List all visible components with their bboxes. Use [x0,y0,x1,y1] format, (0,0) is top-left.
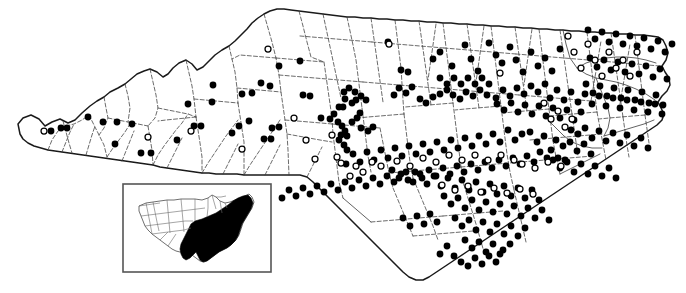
filled-circle-marker [536,197,543,204]
filled-circle-marker [490,209,497,216]
open-circle-marker [394,158,400,164]
filled-circle-marker [85,114,92,121]
filled-circle-marker [588,151,595,158]
filled-circle-marker [541,133,548,140]
filled-circle-marker [412,169,419,176]
filled-circle-marker [585,171,592,178]
filled-circle-marker [508,223,515,230]
filled-circle-marker [515,233,522,240]
filled-circle-marker [450,92,457,99]
filled-circle-marker [659,111,666,118]
filled-circle-marker [648,46,655,53]
filled-circle-marker [476,133,483,140]
filled-circle-marker [613,175,620,182]
open-circle-marker [465,183,471,189]
filled-circle-marker [494,221,501,228]
open-circle-marker [545,159,551,165]
filled-circle-marker [557,46,564,53]
filled-circle-marker [497,139,504,146]
filled-circle-marker [546,217,553,224]
filled-circle-marker [542,55,549,62]
filled-circle-marker [548,147,555,154]
open-circle-marker [303,137,309,143]
open-circle-marker [407,163,413,169]
filled-circle-marker [307,191,314,198]
filled-circle-marker [352,89,359,96]
filled-circle-marker [490,131,497,138]
filled-circle-marker [399,153,406,160]
filled-circle-marker [469,143,476,150]
filled-circle-marker [328,181,335,188]
filled-circle-marker [629,61,636,68]
filled-circle-marker [627,33,634,40]
filled-circle-marker [430,56,437,63]
filled-circle-marker [507,93,514,100]
filled-circle-marker [554,87,561,94]
filled-circle-marker [645,145,652,152]
filled-circle-marker [459,223,466,230]
open-circle-marker [634,49,640,55]
open-circle-marker [360,169,366,175]
open-circle-marker [459,157,465,163]
open-circle-marker [265,46,271,52]
filled-circle-marker [403,90,410,97]
filled-circle-marker [427,149,434,156]
filled-circle-marker [420,141,427,148]
open-circle-marker [433,159,439,165]
filled-circle-marker [611,85,618,92]
filled-circle-marker [342,179,349,186]
us-locator-inset [122,183,272,273]
filled-circle-marker [451,75,458,82]
filled-circle-marker [398,171,405,178]
filled-circle-marker [531,159,538,166]
filled-circle-marker [639,89,646,96]
filled-circle-marker [451,253,458,260]
open-circle-marker [369,159,375,165]
filled-circle-marker [449,63,456,70]
filled-circle-marker [585,27,592,34]
filled-circle-marker [469,197,476,204]
filled-circle-marker [476,207,483,214]
filled-circle-marker [643,63,650,70]
filled-circle-marker [344,133,351,140]
filled-circle-marker [631,143,638,150]
open-circle-marker [347,173,353,179]
filled-circle-marker [198,123,205,130]
open-circle-marker [329,132,335,138]
filled-circle-marker [174,137,181,144]
open-circle-marker [558,163,564,169]
north-carolina-map [0,0,686,293]
filled-circle-marker [594,64,601,71]
filled-circle-marker [638,135,645,142]
filled-circle-marker [457,96,464,103]
filled-circle-marker [407,223,414,230]
filled-circle-marker [286,187,293,194]
filled-circle-marker [269,125,276,132]
filled-circle-marker [529,111,536,118]
filled-circle-marker [391,92,398,99]
filled-circle-marker [427,211,434,218]
filled-circle-marker [636,71,643,78]
open-circle-marker [491,185,497,191]
filled-circle-marker [246,118,253,125]
filled-circle-marker [581,141,588,148]
filled-circle-marker [455,145,462,152]
open-circle-marker [530,191,536,197]
open-circle-marker [532,165,538,171]
filled-circle-marker [542,81,549,88]
filled-circle-marker [473,179,480,186]
filled-circle-marker [318,115,325,122]
filled-circle-marker [363,97,370,104]
filled-circle-marker [459,177,466,184]
open-circle-marker [41,128,47,134]
filled-circle-marker [494,101,501,108]
filled-circle-marker [444,87,451,94]
filled-circle-marker [657,66,664,73]
filled-circle-marker [472,255,479,262]
open-circle-marker [620,57,626,63]
filled-circle-marker [434,139,441,146]
filled-circle-marker [236,123,243,130]
filled-circle-marker [479,261,486,268]
filled-circle-marker [641,35,648,42]
filled-circle-marker [500,247,507,254]
